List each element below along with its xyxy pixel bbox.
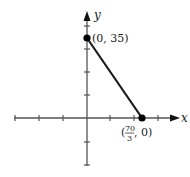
line-segment: [87, 38, 142, 118]
y-axis: [84, 11, 91, 166]
point-b-label: ( 70 3 , 0): [121, 124, 152, 143]
y-axis-label: y: [93, 8, 101, 22]
point-70-3-0: [138, 114, 145, 121]
point-b-denominator: 3: [127, 134, 132, 143]
y-axis-arrow-icon: [84, 11, 91, 21]
x-axis: [14, 115, 180, 122]
graph: y x (0, 35) ( 70 3 , 0): [0, 0, 190, 177]
point-0-35: [83, 34, 90, 41]
x-axis-label: x: [181, 111, 188, 125]
x-axis-arrow-icon: [170, 115, 180, 122]
point-b-close: , 0): [134, 126, 152, 139]
point-a-label: (0, 35): [92, 32, 129, 45]
